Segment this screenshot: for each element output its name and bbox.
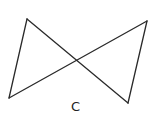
figure-label: C — [71, 99, 80, 114]
left-edge — [9, 19, 27, 98]
diagonal-down — [27, 19, 128, 103]
bowtie-figure: C — [0, 0, 155, 120]
right-edge — [128, 21, 147, 103]
diagonal-up — [9, 21, 147, 98]
